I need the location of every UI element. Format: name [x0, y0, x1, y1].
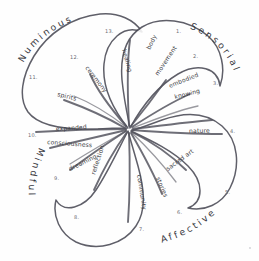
petal-label-stories[interactable]: stories — [155, 176, 170, 198]
petal-number-11: 11. — [29, 74, 38, 80]
petal-label-nature[interactable]: nature — [189, 127, 210, 134]
petal-number-9: 9. — [54, 175, 59, 181]
petal-number-6: 6. — [177, 209, 182, 215]
quadrant-text-mindful: Mindful — [27, 147, 48, 198]
petal-label-knowing[interactable]: knowing — [174, 87, 201, 101]
petal-number-5: 5. — [225, 189, 230, 195]
quadrant-label-mindful[interactable]: Mindful — [27, 147, 48, 198]
quadrant-text-affective: Affective — [159, 206, 218, 245]
petal-number-13: 13. — [105, 28, 114, 34]
petal-number-2: 2. — [193, 53, 198, 59]
petal-number-12: 12. — [70, 54, 79, 60]
petal-number-8: 8. — [74, 214, 79, 220]
petal-label-expanded[interactable]: expanded — [56, 123, 87, 133]
petal-number-3: 3. — [213, 80, 218, 86]
diagram-canvas: Numinous Sensorial Affective Mindful hea… — [0, 0, 259, 261]
petal-number-1: 1. — [176, 28, 181, 34]
petal-number-7: 7. — [139, 226, 144, 232]
quadrant-label-affective[interactable]: Affective — [159, 206, 218, 245]
petal-number-10: 10. — [28, 132, 37, 138]
scan-artifact-dot — [249, 247, 251, 249]
petal-number-4: 4. — [230, 128, 235, 134]
petal-wheel-svg: Numinous Sensorial Affective Mindful hea… — [0, 0, 259, 261]
